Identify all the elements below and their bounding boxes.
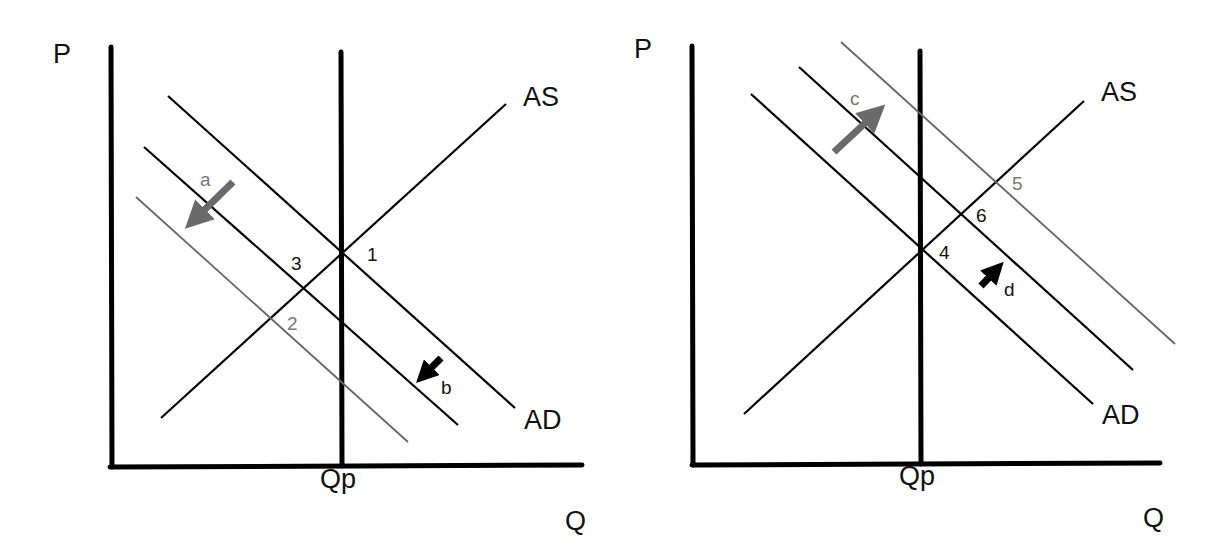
- left-p-label: P: [53, 39, 71, 69]
- right-diagram: P Q Qp AS AD 4 5 6 c d: [634, 34, 1175, 533]
- right-point-6: 6: [976, 205, 987, 226]
- left-qp-line: [341, 52, 342, 466]
- left-arrow-b-label: b: [441, 377, 452, 398]
- left-diagram: P Q Qp AS AD 1 2 3 a b: [53, 39, 586, 536]
- left-point-1: 1: [367, 244, 378, 265]
- left-arrow-a-label: a: [200, 169, 211, 190]
- left-point-2: 2: [287, 313, 298, 334]
- right-q-label: Q: [1143, 503, 1164, 533]
- ad-as-diagrams: P Q Qp AS AD 1 2 3 a b P Q Qp AS AD 4 5 …: [0, 0, 1218, 554]
- left-arrow-b: [423, 358, 441, 376]
- left-y-axis: [111, 47, 112, 467]
- right-y-axis: [692, 46, 693, 465]
- left-qp-label: Qp: [320, 464, 356, 494]
- right-as-label: AS: [1101, 77, 1137, 107]
- right-ad-curve-2: [799, 67, 1133, 370]
- right-point-4: 4: [939, 242, 950, 263]
- right-ad-label: AD: [1102, 400, 1140, 430]
- right-as-curve: [744, 101, 1084, 414]
- left-ad-curve-2: [144, 147, 458, 425]
- left-point-3: 3: [291, 253, 302, 274]
- left-q-label: Q: [565, 506, 586, 536]
- right-p-label: P: [634, 34, 652, 64]
- left-ad-curve-3: [136, 197, 408, 442]
- right-arrow-d-label: d: [1004, 279, 1015, 300]
- left-as-label: AS: [523, 82, 559, 112]
- right-arrow-d: [981, 269, 997, 286]
- left-as-curve: [161, 104, 506, 418]
- right-arrow-c-label: c: [850, 88, 860, 109]
- right-point-5: 5: [1012, 173, 1023, 194]
- right-qp-label: Qp: [899, 461, 935, 491]
- left-ad-label: AD: [524, 405, 562, 435]
